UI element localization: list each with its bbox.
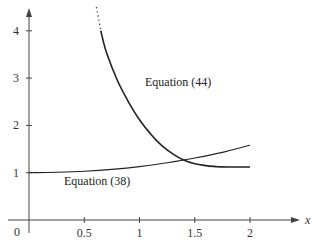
x-tick-label: 2 bbox=[247, 226, 253, 240]
y-axis-arrow-icon bbox=[26, 8, 32, 17]
axes bbox=[8, 14, 293, 233]
chart: 0.511.52 1234 0 x Equation (44) Equation… bbox=[0, 0, 312, 243]
curve-label-eq44: Equation (44) bbox=[145, 75, 211, 89]
x-tick-label: 1 bbox=[137, 226, 143, 240]
curve-label-eq38: Equation (38) bbox=[64, 174, 130, 188]
series-line-eq44 bbox=[101, 31, 250, 167]
x-tick-labels: 0.511.52 bbox=[77, 226, 253, 240]
series-line-eq38 bbox=[29, 145, 250, 172]
y-tick-label: 3 bbox=[13, 71, 19, 85]
series-group bbox=[29, 7, 250, 173]
x-axis-label: x bbox=[304, 213, 311, 227]
y-tick-label: 1 bbox=[13, 166, 19, 180]
series-dotted-extension bbox=[96, 7, 100, 31]
origin-label: 0 bbox=[14, 225, 20, 239]
x-tick-label: 1.5 bbox=[187, 226, 202, 240]
x-tick-label: 0.5 bbox=[77, 226, 92, 240]
y-tick-labels: 1234 bbox=[13, 24, 19, 180]
x-axis-arrow-icon bbox=[291, 217, 300, 223]
y-tick-label: 2 bbox=[13, 118, 19, 132]
y-tick-label: 4 bbox=[13, 24, 19, 38]
